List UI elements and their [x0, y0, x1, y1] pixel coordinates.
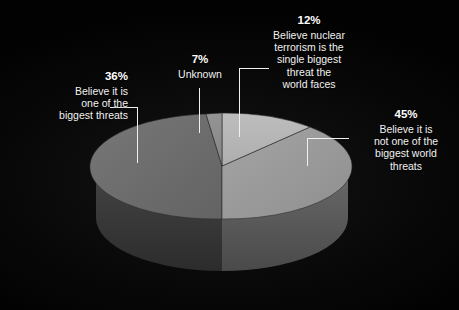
- slice-percent-12: 12%: [256, 14, 362, 28]
- leader-line-45-horizontal: [307, 138, 349, 139]
- slice-description-12: Believe nuclear terrorism is the single …: [256, 29, 362, 91]
- slice-description-36: Believe it is one of the biggest threats: [6, 85, 128, 122]
- slice-label-7: 7% Unknown: [158, 53, 242, 80]
- slice-description-45: Believe it is not one of the biggest wor…: [356, 123, 456, 173]
- chart-area: 36% Believe it is one of the biggest thr…: [0, 0, 459, 310]
- slice-label-45: 45% Believe it is not one of the biggest…: [356, 108, 456, 172]
- leader-line-7-vertical: [199, 88, 200, 133]
- leader-line-45-vertical: [307, 138, 308, 166]
- slice-percent-36: 36%: [6, 70, 128, 84]
- slice-percent-45: 45%: [356, 108, 456, 122]
- slice-label-12: 12% Believe nuclear terrorism is the sin…: [256, 14, 362, 90]
- leader-line-36-vertical: [137, 107, 138, 163]
- slice-percent-7: 7%: [158, 53, 242, 67]
- pie-chart-figure: 36% Believe it is one of the biggest thr…: [0, 0, 459, 310]
- pie-top-faces: [90, 113, 352, 219]
- slice-description-7: Unknown: [158, 68, 242, 80]
- slice-label-36: 36% Believe it is one of the biggest thr…: [6, 70, 128, 122]
